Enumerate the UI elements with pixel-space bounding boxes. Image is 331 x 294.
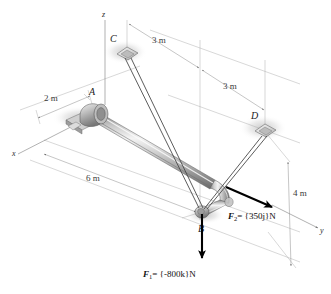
diagram-canvas: z x y 2 m 3 m 3 m 6 m 4 m xyxy=(0,0,331,294)
force-F1-symbol: F xyxy=(142,269,149,279)
ground-guide-4 xyxy=(150,30,300,84)
bearing-bore-hole xyxy=(97,108,105,121)
force-F2-symbol: F xyxy=(227,211,234,221)
ground-guide-2 xyxy=(20,66,140,110)
y-axis-label: y xyxy=(319,226,324,235)
reference-lines xyxy=(20,30,300,262)
point-label-D: D xyxy=(250,110,259,121)
dimension-4m: 4 m xyxy=(262,128,307,268)
dim-6m-label: 6 m xyxy=(86,173,100,183)
force-F2-expression: = {350j}N xyxy=(237,211,276,221)
force-F2-label: F2= {350j}N xyxy=(227,211,276,222)
force-F2-group: F2= {350j}N xyxy=(226,187,276,222)
dim-3m-upper-label: 3 m xyxy=(152,35,166,45)
cable-D-to-B-strand-2 xyxy=(207,136,267,209)
point-label-C: C xyxy=(110,33,117,44)
dim-2m-ext-left xyxy=(36,110,40,124)
shadow-group xyxy=(52,40,287,224)
x-axis-label: x xyxy=(11,149,16,158)
force-F1-expression: = {-800k}N xyxy=(152,269,196,279)
pipe-main-body xyxy=(93,112,215,189)
pipe-main-highlight xyxy=(99,115,213,183)
dim-4m-label: 4 m xyxy=(293,188,307,198)
pipe-joint-B-inner xyxy=(198,209,205,215)
dim-3m-lower-label: 3 m xyxy=(223,81,237,91)
point-label-A: A xyxy=(88,86,96,97)
pipe-main-shade xyxy=(95,120,212,188)
force-F1-label: F1= {-800k}N xyxy=(142,269,196,280)
cable-C-to-B-strand-2 xyxy=(131,58,203,208)
pipe-collar-elbow xyxy=(225,197,233,206)
dim-4m-ext-bottom xyxy=(268,232,296,268)
force-F1-group: F1= {-800k}N xyxy=(142,214,202,280)
cable-C-to-B-strand-1 xyxy=(125,58,199,208)
statics-figure: z x y 2 m 3 m 3 m 6 m 4 m xyxy=(0,0,331,294)
z-axis-label: z xyxy=(101,10,106,19)
dim-2m-label: 2 m xyxy=(44,93,58,103)
